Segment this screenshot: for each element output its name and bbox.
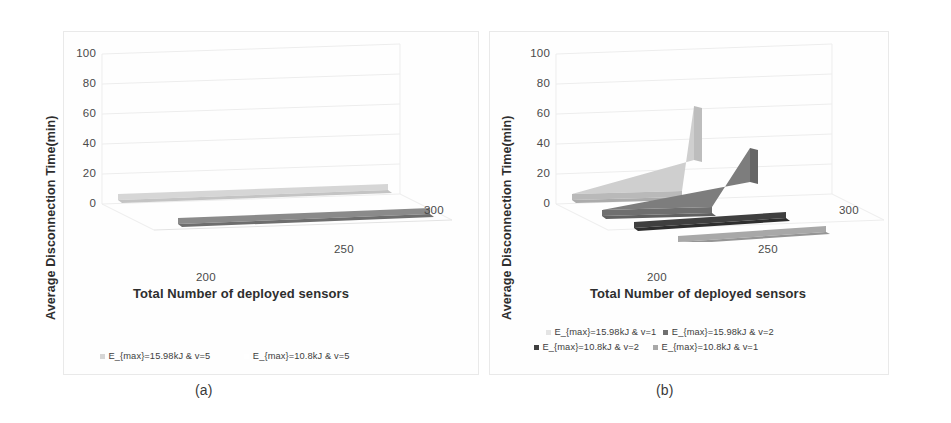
legend-swatch-icon	[546, 330, 551, 335]
legend-swatch-icon	[534, 345, 539, 350]
x-axis-title-b: Total Number of deployed sensors	[590, 286, 806, 301]
y-tick-label-a-20: 20	[70, 167, 96, 179]
legend-row: E_{max}=10.8kJ & v=2 E_{max}=10.8kJ & v=…	[530, 342, 774, 352]
legend-label: E_{max}=15.98kJ & v=2	[672, 327, 774, 337]
legend-label: E_{max}=10.8kJ & v=5	[253, 351, 350, 361]
depth-tick-label-a-250: 250	[334, 243, 354, 255]
legend-label: E_{max}=15.98kJ & v=1	[555, 327, 657, 337]
y-tick-label-a-40: 40	[70, 137, 96, 149]
y-tick-label-b-40: 40	[524, 137, 550, 149]
depth-tick-label-a-200: 200	[196, 271, 216, 283]
legend-item-a-1[interactable]: E_{max}=10.8kJ & v=5	[244, 351, 349, 361]
panel-caption-b: (b)	[656, 382, 674, 398]
legend-label: E_{max}=15.98kJ & v=5	[109, 351, 211, 361]
y-axis-title-b: Average Disconnection Time(min)	[500, 115, 514, 320]
legend-item-b-3[interactable]: E_{max}=10.8kJ & v=1	[653, 342, 758, 352]
depth-tick-label-a-300: 300	[424, 204, 444, 216]
y-tick-label-b-100: 100	[524, 47, 550, 59]
legend-item-a-0[interactable]: E_{max}=15.98kJ & v=5	[100, 351, 210, 361]
legend-swatch-icon	[244, 354, 249, 359]
x-axis-title-a: Total Number of deployed sensors	[133, 286, 349, 301]
chart-legend-a: E_{max}=15.98kJ & v=5 E_{max}=10.8kJ & v…	[100, 351, 349, 361]
y-tick-label-b-80: 80	[524, 77, 550, 89]
y-tick-label-a-0: 0	[70, 197, 96, 209]
surface-ribbon-a-0	[118, 184, 392, 203]
legend-item-b-2[interactable]: E_{max}=10.8kJ & v=2	[534, 342, 639, 352]
y-axis-title-a: Average Disconnection Time(min)	[44, 115, 58, 320]
y-tick-label-b-20: 20	[524, 167, 550, 179]
y-tick-label-a-80: 80	[70, 77, 96, 89]
figure-container: Average Disconnection Time(min) 100 80 6…	[0, 0, 951, 423]
depth-tick-label-b-200: 200	[647, 271, 667, 283]
y-tick-label-a-60: 60	[70, 107, 96, 119]
legend-item-b-0[interactable]: E_{max}=15.98kJ & v=1	[546, 327, 656, 337]
y-tick-label-a-100: 100	[70, 47, 96, 59]
chart-legend-b: E_{max}=15.98kJ & v=1 E_{max}=15.98kJ & …	[530, 327, 774, 352]
legend-label: E_{max}=10.8kJ & v=2	[543, 342, 640, 352]
surface-ribbon-b-0	[572, 106, 702, 203]
panel-caption-a: (a)	[195, 382, 213, 398]
legend-label: E_{max}=10.8kJ & v=1	[662, 342, 759, 352]
legend-swatch-icon	[100, 354, 105, 359]
legend-swatch-icon	[653, 345, 658, 350]
legend-row: E_{max}=15.98kJ & v=1 E_{max}=15.98kJ & …	[530, 327, 774, 337]
legend-item-b-1[interactable]: E_{max}=15.98kJ & v=2	[663, 327, 773, 337]
y-tick-label-b-0: 0	[524, 197, 550, 209]
surface-ribbon-a-1	[178, 208, 434, 227]
chart-plot-area-a	[100, 42, 460, 232]
legend-row: E_{max}=15.98kJ & v=5 E_{max}=10.8kJ & v…	[100, 351, 349, 361]
surface-ribbon-b-3	[678, 226, 830, 242]
legend-swatch-icon	[663, 330, 668, 335]
y-tick-label-b-60: 60	[524, 107, 550, 119]
depth-tick-label-b-250: 250	[758, 243, 778, 255]
depth-tick-label-b-300: 300	[839, 204, 859, 216]
